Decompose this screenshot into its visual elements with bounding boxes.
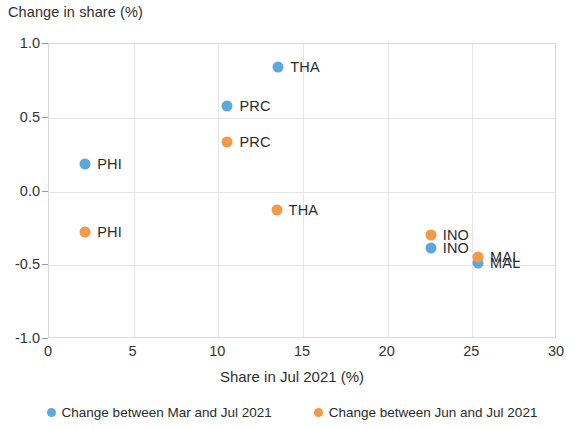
data-point[interactable] xyxy=(273,61,284,72)
y-tick-mark xyxy=(42,117,48,118)
data-point[interactable] xyxy=(271,204,282,215)
gridline-vertical xyxy=(303,44,304,337)
data-point[interactable] xyxy=(80,226,91,237)
data-point-label: PHI xyxy=(97,156,122,172)
x-tick-label: 10 xyxy=(209,343,225,359)
x-tick-label: 25 xyxy=(463,343,479,359)
data-point-label: PRC xyxy=(239,98,270,114)
y-tick-label: 1.0 xyxy=(0,35,40,51)
gridline-vertical xyxy=(472,44,473,337)
y-tick-mark xyxy=(42,43,48,44)
data-point[interactable] xyxy=(473,251,484,262)
y-tick-mark xyxy=(42,264,48,265)
chart-legend: Change between Mar and Jul 2021Change be… xyxy=(0,405,584,420)
gridline-vertical xyxy=(218,44,219,337)
y-tick-mark xyxy=(42,191,48,192)
legend-label: Change between Jun and Jul 2021 xyxy=(329,405,538,420)
data-point[interactable] xyxy=(80,158,91,169)
legend-entry[interactable]: Change between Jun and Jul 2021 xyxy=(314,405,538,420)
y-tick-label: 0.5 xyxy=(0,109,40,125)
gridline-vertical xyxy=(388,44,389,337)
data-point-label: THA xyxy=(290,59,320,75)
data-point-label: INO xyxy=(443,227,469,243)
legend-swatch-icon xyxy=(314,408,323,417)
gridline-vertical xyxy=(134,44,135,337)
x-axis-title: Share in Jul 2021 (%) xyxy=(0,368,584,385)
y-tick-label: -0.5 xyxy=(0,256,40,272)
y-tick-label: 0.0 xyxy=(0,183,40,199)
x-tick-label: 20 xyxy=(379,343,395,359)
x-tick-label: 15 xyxy=(294,343,310,359)
y-tick-mark xyxy=(42,338,48,339)
x-tick-label: 5 xyxy=(129,343,137,359)
data-point-label: MAL xyxy=(490,249,520,265)
legend-entry[interactable]: Change between Mar and Jul 2021 xyxy=(47,405,272,420)
data-point[interactable] xyxy=(222,101,233,112)
data-point-label: PHI xyxy=(97,224,122,240)
data-point-label: THA xyxy=(289,202,319,218)
legend-label: Change between Mar and Jul 2021 xyxy=(62,405,272,420)
gridline-horizontal xyxy=(49,118,555,119)
x-tick-label: 0 xyxy=(44,343,52,359)
legend-swatch-icon xyxy=(47,408,56,417)
scatter-chart: Change in share (%) 1.00.50.0-0.5-1.0 05… xyxy=(0,0,584,430)
data-point[interactable] xyxy=(425,229,436,240)
x-tick-label: 30 xyxy=(548,343,564,359)
y-tick-label: -1.0 xyxy=(0,330,40,346)
data-point-label: PRC xyxy=(239,134,270,150)
gridline-horizontal xyxy=(49,192,555,193)
y-axis-title: Change in share (%) xyxy=(8,4,143,20)
data-point[interactable] xyxy=(425,243,436,254)
data-point[interactable] xyxy=(222,136,233,147)
plot-area xyxy=(48,43,556,338)
